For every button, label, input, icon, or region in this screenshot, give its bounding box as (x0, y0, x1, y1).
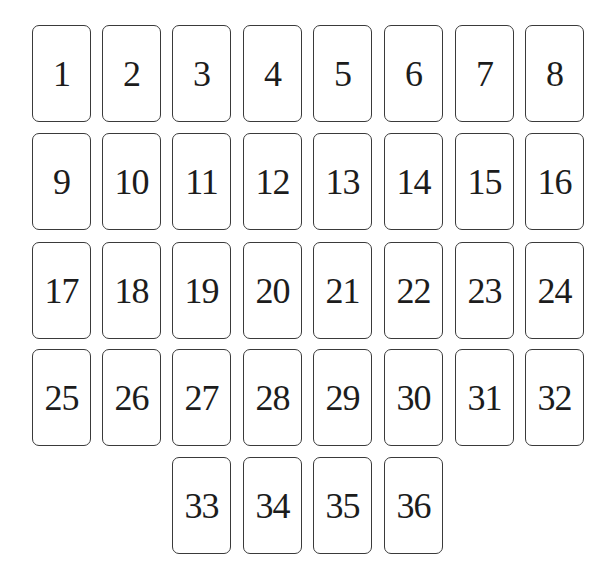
card-number: 31 (468, 380, 502, 416)
card-number: 29 (326, 380, 360, 416)
card-number: 7 (476, 56, 493, 92)
card-19[interactable]: 19 (172, 242, 231, 339)
card-29[interactable]: 29 (313, 349, 372, 446)
card-number: 19 (185, 273, 219, 309)
card-number: 21 (326, 273, 360, 309)
card-number: 20 (256, 273, 290, 309)
card-35[interactable]: 35 (313, 457, 372, 554)
card-number: 27 (185, 380, 219, 416)
card-2[interactable]: 2 (102, 25, 161, 122)
card-number: 5 (334, 56, 351, 92)
card-34[interactable]: 34 (243, 457, 302, 554)
card-3[interactable]: 3 (172, 25, 231, 122)
card-31[interactable]: 31 (455, 349, 514, 446)
card-12[interactable]: 12 (243, 133, 302, 230)
card-7[interactable]: 7 (455, 25, 514, 122)
card-36[interactable]: 36 (384, 457, 443, 554)
card-15[interactable]: 15 (455, 133, 514, 230)
card-number: 13 (326, 164, 360, 200)
card-number: 24 (538, 273, 572, 309)
card-26[interactable]: 26 (102, 349, 161, 446)
card-20[interactable]: 20 (243, 242, 302, 339)
card-grid: 1234567891011121314151617181920212223242… (0, 0, 616, 579)
card-number: 18 (115, 273, 149, 309)
card-18[interactable]: 18 (102, 242, 161, 339)
card-number: 35 (326, 488, 360, 524)
card-1[interactable]: 1 (32, 25, 91, 122)
card-number: 1 (53, 56, 70, 92)
card-number: 33 (185, 488, 219, 524)
card-16[interactable]: 16 (525, 133, 584, 230)
card-6[interactable]: 6 (384, 25, 443, 122)
card-number: 3 (193, 56, 210, 92)
card-22[interactable]: 22 (384, 242, 443, 339)
card-30[interactable]: 30 (384, 349, 443, 446)
card-11[interactable]: 11 (172, 133, 231, 230)
card-8[interactable]: 8 (525, 25, 584, 122)
card-4[interactable]: 4 (243, 25, 302, 122)
card-number: 16 (538, 164, 572, 200)
card-33[interactable]: 33 (172, 457, 231, 554)
card-number: 6 (405, 56, 422, 92)
card-number: 11 (185, 164, 218, 200)
card-number: 17 (45, 273, 79, 309)
card-14[interactable]: 14 (384, 133, 443, 230)
card-5[interactable]: 5 (313, 25, 372, 122)
card-25[interactable]: 25 (32, 349, 91, 446)
card-number: 32 (538, 380, 572, 416)
card-number: 26 (115, 380, 149, 416)
card-number: 12 (256, 164, 290, 200)
card-23[interactable]: 23 (455, 242, 514, 339)
card-28[interactable]: 28 (243, 349, 302, 446)
card-13[interactable]: 13 (313, 133, 372, 230)
card-number: 22 (397, 273, 431, 309)
card-number: 36 (397, 488, 431, 524)
card-27[interactable]: 27 (172, 349, 231, 446)
card-number: 30 (397, 380, 431, 416)
card-21[interactable]: 21 (313, 242, 372, 339)
card-number: 15 (468, 164, 502, 200)
card-24[interactable]: 24 (525, 242, 584, 339)
card-32[interactable]: 32 (525, 349, 584, 446)
card-17[interactable]: 17 (32, 242, 91, 339)
card-number: 9 (53, 164, 70, 200)
card-number: 2 (123, 56, 140, 92)
card-number: 23 (468, 273, 502, 309)
card-9[interactable]: 9 (32, 133, 91, 230)
card-10[interactable]: 10 (102, 133, 161, 230)
card-number: 10 (115, 164, 149, 200)
card-number: 14 (397, 164, 431, 200)
card-number: 28 (256, 380, 290, 416)
card-number: 34 (256, 488, 290, 524)
card-number: 4 (264, 56, 281, 92)
card-number: 25 (45, 380, 79, 416)
card-number: 8 (546, 56, 563, 92)
